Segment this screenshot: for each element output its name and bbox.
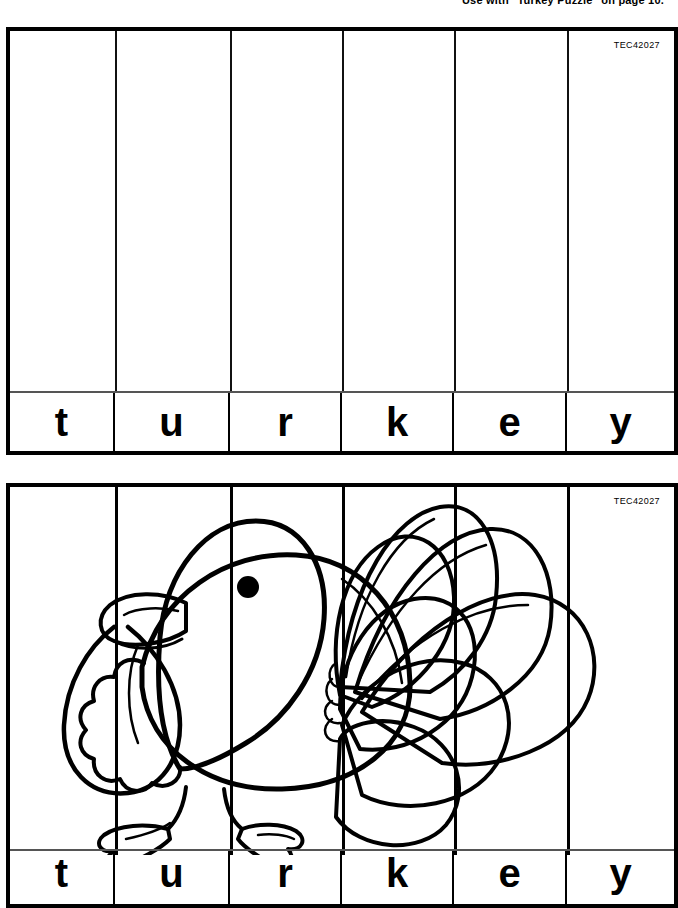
puzzle-turkey-picture: TEC42027 t u r k e y [6, 483, 678, 908]
puzzle-blank-grid: TEC42027 t u r k e y [6, 27, 678, 455]
cut-line [342, 31, 344, 393]
letter-cell: e [454, 851, 567, 904]
cut-line [567, 31, 569, 393]
letter-cell: y [567, 851, 674, 904]
body [142, 555, 410, 789]
cut-line [230, 31, 232, 393]
leg-front [224, 789, 242, 829]
cut-lines-blank [10, 31, 674, 393]
turkey-picture-area: TEC42027 [10, 487, 674, 855]
letter-cell: r [230, 851, 342, 904]
letter-cell: y [567, 393, 674, 451]
letter-cell: r [230, 393, 342, 451]
tail-feather-vein [362, 605, 528, 699]
letter-cell: t [10, 851, 115, 904]
letter-cell: e [454, 393, 567, 451]
cut-line [454, 31, 456, 393]
letter-strip-picture: t u r k e y [10, 849, 674, 904]
letter-cell: t [10, 393, 115, 451]
toe-line-front [258, 834, 294, 839]
eye [237, 576, 259, 598]
letter-cell: u [115, 393, 230, 451]
blank-picture-area: TEC42027 [10, 31, 674, 393]
letter-cell: k [342, 851, 454, 904]
letter-strip-blank: t u r k e y [10, 391, 674, 451]
beak-upper [101, 594, 186, 644]
head [159, 521, 325, 769]
tec-code-picture: TEC42027 [614, 496, 660, 506]
turkey-illustration [10, 487, 674, 855]
cut-line [115, 31, 117, 393]
tec-code-blank: TEC42027 [614, 40, 660, 50]
letter-cell: k [342, 393, 454, 451]
header-note: Use with "Turkey Puzzle" on page 10. [462, 0, 664, 6]
letter-cell: u [115, 851, 230, 904]
